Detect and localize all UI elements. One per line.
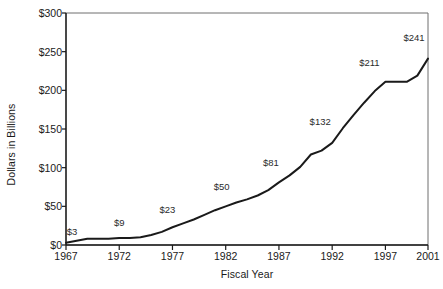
data-point-label: $3 — [67, 225, 78, 236]
chart-figure: Dollars in Billions $0$50$100$150$200$25… — [0, 0, 443, 289]
x-axis-title: Fiscal Year — [66, 268, 428, 280]
data-point-label: $241 — [403, 31, 424, 42]
data-point-label: $9 — [114, 217, 125, 228]
data-point-label: $211 — [359, 56, 379, 67]
data-point-label: $132 — [310, 115, 331, 126]
data-point-label: $23 — [160, 204, 176, 215]
axis-tick-marks — [62, 13, 428, 250]
data-point-label: $50 — [214, 181, 230, 192]
data-point-label: $81 — [263, 157, 279, 168]
data-line-series — [66, 59, 428, 243]
axis-frame — [66, 13, 428, 245]
plot-area — [0, 0, 443, 289]
